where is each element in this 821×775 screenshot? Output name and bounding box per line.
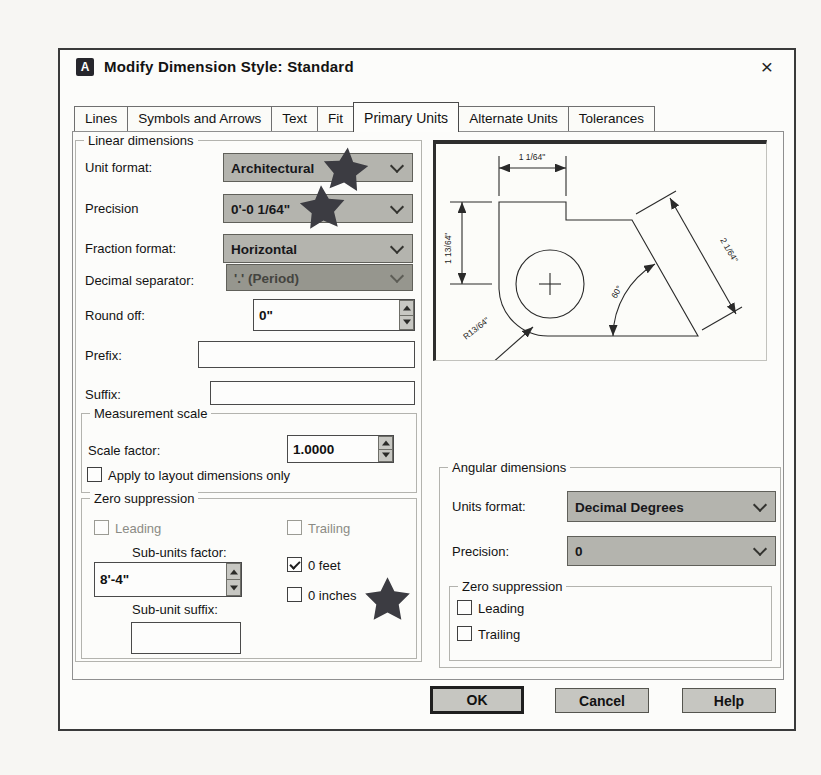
- spin-down-icon[interactable]: [399, 315, 414, 331]
- sub-units-factor-spinner: [94, 562, 242, 597]
- spin-up-icon[interactable]: [399, 300, 414, 316]
- decimal-separator-value: '.' (Period): [234, 270, 299, 285]
- chevron-down-icon: [390, 199, 404, 213]
- zero-inches-label: 0 inches: [308, 588, 356, 603]
- apply-layout-label: Apply to layout dimensions only: [108, 468, 290, 483]
- close-icon[interactable]: ×: [754, 54, 780, 80]
- leading-checkbox[interactable]: [94, 520, 109, 535]
- preview-angle-dimension: 60°: [609, 284, 624, 300]
- modify-dimension-style-dialog: A Modify Dimension Style: Standard × Lin…: [58, 48, 796, 731]
- unit-format-dropdown[interactable]: Architectural: [223, 153, 413, 182]
- zero-suppression-legend: Zero suppression: [90, 491, 198, 506]
- sub-units-factor-input[interactable]: [95, 563, 236, 596]
- prefix-input[interactable]: [198, 341, 415, 368]
- trailing-label: Trailing: [308, 521, 350, 536]
- measurement-scale-group: Measurement scale Scale factor: Apply to…: [81, 413, 417, 493]
- dialog-title: Modify Dimension Style: Standard: [104, 58, 354, 75]
- chevron-down-icon: [753, 542, 767, 556]
- angular-precision-value: 0: [575, 544, 583, 559]
- fraction-format-value: Horizontal: [231, 241, 297, 256]
- angular-units-format-dropdown[interactable]: Decimal Degrees: [567, 491, 776, 522]
- autocad-app-icon: A: [76, 58, 94, 76]
- zero-feet-checkbox[interactable]: [287, 557, 302, 572]
- sub-unit-suffix-input[interactable]: [131, 622, 241, 654]
- preview-radius-dimension: R13/64": [461, 315, 491, 342]
- cancel-button[interactable]: Cancel: [555, 688, 649, 713]
- sub-unit-suffix-label: Sub-unit suffix:: [132, 602, 218, 617]
- tab-strip: Lines Symbols and Arrows Text Fit Primar…: [74, 106, 654, 131]
- angular-leading-checkbox[interactable]: [457, 600, 472, 615]
- preview-diagonal-dimension: 2 1/64": [718, 236, 740, 264]
- preview-top-dimension: 1 1/64": [519, 152, 546, 162]
- ok-button[interactable]: OK: [430, 686, 524, 714]
- preview-left-dimension: 1 13/64": [443, 233, 453, 264]
- tab-lines[interactable]: Lines: [74, 106, 128, 131]
- tab-tolerances[interactable]: Tolerances: [568, 106, 655, 131]
- decimal-separator-dropdown: '.' (Period): [226, 264, 413, 291]
- precision-value: 0'-0 1/64": [231, 201, 290, 216]
- round-off-input[interactable]: [254, 300, 409, 330]
- zero-feet-label: 0 feet: [308, 558, 341, 573]
- dimension-preview-drawing: 1 1/64" 1 13/64" 2 1/64" 60° R13/64": [436, 144, 766, 360]
- linear-dimensions-legend: Linear dimensions: [84, 133, 198, 148]
- scale-factor-label: Scale factor:: [88, 443, 160, 458]
- angular-leading-label: Leading: [478, 601, 524, 616]
- spin-up-icon[interactable]: [226, 563, 241, 580]
- tab-primary-units[interactable]: Primary Units: [353, 102, 459, 132]
- prefix-label: Prefix:: [85, 348, 122, 363]
- unit-format-value: Architectural: [231, 160, 314, 175]
- angular-dimensions-group: Angular dimensions Units format: Decimal…: [439, 467, 781, 668]
- angular-dimensions-legend: Angular dimensions: [448, 460, 570, 475]
- angular-precision-label: Precision:: [452, 544, 509, 559]
- dimension-preview: 1 1/64" 1 13/64" 2 1/64" 60° R13/64": [433, 140, 767, 361]
- suffix-label: Suffix:: [85, 387, 121, 402]
- apply-layout-checkbox[interactable]: [87, 467, 102, 482]
- sub-units-factor-label: Sub-units factor:: [132, 545, 227, 560]
- spin-down-icon[interactable]: [226, 579, 241, 596]
- decimal-separator-label: Decimal separator:: [85, 273, 194, 288]
- scale-factor-spinner: [287, 435, 394, 463]
- chevron-down-icon: [390, 268, 404, 282]
- spin-up-icon[interactable]: [378, 436, 393, 450]
- scale-factor-input[interactable]: [288, 436, 388, 462]
- chevron-down-icon: [753, 497, 767, 511]
- tab-alternate-units[interactable]: Alternate Units: [458, 106, 569, 131]
- angular-trailing-label: Trailing: [478, 627, 520, 642]
- angular-trailing-checkbox[interactable]: [457, 626, 472, 641]
- angular-zero-suppression-group: Zero suppression Leading Trailing: [449, 586, 772, 661]
- suffix-input[interactable]: [210, 381, 415, 405]
- angular-units-format-value: Decimal Degrees: [575, 499, 684, 514]
- precision-label: Precision: [85, 201, 138, 216]
- measurement-scale-legend: Measurement scale: [90, 406, 211, 421]
- round-off-spinner: [253, 299, 415, 331]
- chevron-down-icon: [390, 239, 404, 253]
- star-marker-icon: [298, 183, 348, 230]
- star-marker-icon: [364, 577, 411, 621]
- leading-label: Leading: [115, 521, 161, 536]
- angular-precision-dropdown[interactable]: 0: [567, 536, 776, 566]
- zero-inches-checkbox[interactable]: [287, 587, 302, 602]
- trailing-checkbox[interactable]: [287, 520, 302, 535]
- tab-symbols-and-arrows[interactable]: Symbols and Arrows: [127, 106, 272, 131]
- round-off-label: Round off:: [85, 308, 145, 323]
- angular-units-format-label: Units format:: [452, 499, 526, 514]
- angular-zero-suppression-legend: Zero suppression: [458, 579, 566, 594]
- primary-units-panel: Linear dimensions Unit format: Architect…: [72, 131, 784, 680]
- tab-text[interactable]: Text: [271, 106, 318, 131]
- unit-format-label: Unit format:: [85, 160, 152, 175]
- fraction-format-label: Fraction format:: [85, 241, 176, 256]
- tab-fit[interactable]: Fit: [317, 106, 354, 131]
- chevron-down-icon: [390, 158, 404, 172]
- help-button[interactable]: Help: [682, 688, 776, 713]
- spin-down-icon[interactable]: [378, 449, 393, 463]
- fraction-format-dropdown[interactable]: Horizontal: [223, 234, 413, 263]
